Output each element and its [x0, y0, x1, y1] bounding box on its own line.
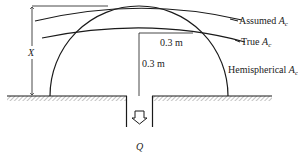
- vertical-distance-label: 0.3 m: [142, 58, 165, 69]
- horizontal-distance-label: 0.3 m: [160, 37, 183, 48]
- true-area-subscript: c: [268, 41, 272, 49]
- true-area-text: True: [241, 36, 262, 47]
- ground-left: [7, 96, 127, 101]
- assumed-area-curve: [35, 8, 242, 21]
- hemispherical-area-text: Hemispherical: [228, 64, 289, 75]
- hemispherical-area-label: Hemispherical Ac: [228, 64, 298, 77]
- dimension-x-label: X: [27, 47, 35, 58]
- assumed-area-label: Assumed Ac: [239, 15, 289, 28]
- capture-area-diagram: X 0.3 m 0.3 m Assumed Ac True Ac Hemisph…: [0, 0, 298, 159]
- ground-right: [152, 96, 272, 101]
- hemispherical-area-subscript: c: [295, 69, 298, 77]
- true-area-curve: [42, 28, 245, 42]
- flow-label: Q: [136, 141, 144, 152]
- flow-arrow-icon: [132, 111, 147, 124]
- true-area-label: True Ac: [241, 36, 272, 49]
- assumed-area-text: Assumed: [239, 15, 279, 26]
- assumed-area-subscript: c: [285, 20, 289, 28]
